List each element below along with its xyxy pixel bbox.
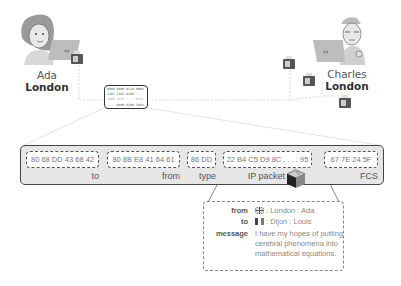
detail-message-value: I have my hopes of putting cerebral phen… <box>255 229 343 259</box>
receiver-city: London <box>322 80 372 92</box>
field-type[interactable]: 86 DD <box>187 151 216 168</box>
uk-flag-icon <box>255 207 264 214</box>
code-icon: ‹› <box>64 47 70 55</box>
ethernet-frame: 80 68 DD 43 68 42 to 80 8B E8 41 64 61 f… <box>20 145 384 185</box>
field-to-value: 80 68 DD 43 68 42 <box>31 155 94 164</box>
detail-from-key: from <box>231 206 248 216</box>
field-type-label: type <box>186 171 216 181</box>
field-fcs-label: FCS <box>341 171 378 181</box>
sender-city: London <box>22 81 72 93</box>
field-fcs[interactable]: 67 7E 24 5F <box>324 151 378 168</box>
receiver-phone-icon-1 <box>282 55 296 69</box>
france-flag-icon <box>255 218 264 225</box>
field-from[interactable]: 80 8B E8 41 64 61 <box>107 151 180 168</box>
field-from-label: from <box>152 171 180 181</box>
field-from-value: 80 8B E8 41 64 61 <box>112 155 174 164</box>
receiver-phone-icon-3 <box>338 94 352 108</box>
field-to[interactable]: 80 68 DD 43 68 42 <box>26 151 99 168</box>
binary-line: 1000 1019 .... 0101 <box>107 97 145 102</box>
field-type-value: 86 DD <box>191 155 212 164</box>
charles-illustration: ‹› <box>305 10 375 65</box>
detail-to-value: : Dijon : Louis <box>266 217 311 226</box>
field-ip-packet-value: 22 B4 C5 D9 8C . . . . 95 <box>227 155 309 164</box>
receiver-phone-icon-2 <box>302 72 316 86</box>
sender-name: Ada <box>22 69 72 81</box>
receiver-label: Charles London <box>322 68 372 92</box>
code-icon: ‹› <box>323 48 329 56</box>
binary-line: .... 0000 0100 1010 <box>107 103 145 108</box>
sender-label: Ada London <box>22 69 72 93</box>
receiver-name: Charles <box>322 68 372 80</box>
field-fcs-value: 67 7E 24 5F <box>331 155 372 164</box>
detail-to-key: to <box>241 217 248 227</box>
package-icon <box>284 165 308 189</box>
detail-message-key: message <box>216 229 248 239</box>
field-ip-packet-label: IP packet <box>241 171 285 181</box>
binary-data-box: 0000 0000 0110 00001101 1101 0100 ....10… <box>104 85 148 109</box>
ada-phone-icon <box>70 50 84 64</box>
field-to-label: to <box>71 171 99 181</box>
detail-from-value: : London : Ada <box>266 206 314 215</box>
packet-detail-panel: from : London : Ada to : Dijon : Louis m… <box>203 201 344 271</box>
